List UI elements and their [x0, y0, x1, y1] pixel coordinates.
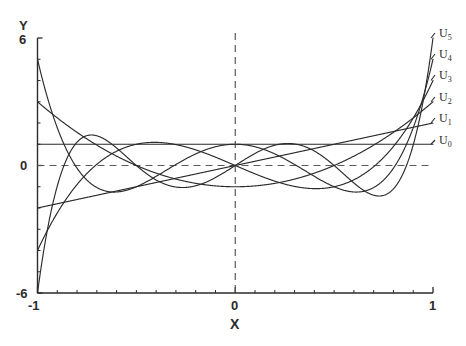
leader-u_0: [431, 140, 435, 144]
plot-canvas: [0, 0, 466, 346]
series-label-base: U: [439, 26, 448, 40]
leader-u_1: [431, 118, 435, 123]
series-label-base: U: [439, 90, 448, 104]
leader-u_2: [431, 97, 435, 102]
series-label-subscript: 5: [448, 33, 452, 42]
series-label-subscript: 0: [448, 140, 452, 149]
chebyshev-u-plot-figure: Y 6 0 -6 -1 0 1 X U5U4U3U2U1U0: [0, 0, 466, 346]
leader-u_5: [431, 33, 435, 38]
y-axis-title: Y: [19, 19, 28, 32]
series-label-u5: U5: [439, 27, 452, 42]
series-label-u3: U3: [439, 69, 452, 84]
series-label-subscript: 1: [448, 118, 452, 127]
x-axis-tick-label-zero: 0: [231, 299, 238, 312]
curve-u_4: [38, 59, 434, 192]
series-label-u0: U0: [439, 134, 452, 149]
series-label-subscript: 2: [448, 97, 452, 106]
y-axis-tick-label-zero: 0: [20, 159, 27, 172]
y-axis-tick-label-bottom: -6: [16, 287, 28, 300]
series-label-base: U: [439, 68, 448, 82]
series-label-u2: U2: [439, 91, 452, 106]
series-label-subscript: 4: [448, 54, 452, 63]
series-label-base: U: [439, 133, 448, 147]
series-label-u4: U4: [439, 48, 452, 63]
leader-u_4: [431, 54, 435, 59]
y-axis-tick-label-top: 6: [19, 33, 26, 46]
x-axis-title: X: [230, 317, 239, 331]
series-label-base: U: [439, 47, 448, 61]
series-label-u1: U1: [439, 112, 452, 127]
series-label-base: U: [439, 111, 448, 125]
x-axis-tick-label-minus-one: -1: [28, 299, 40, 312]
leader-u_3: [431, 75, 435, 81]
x-axis-tick-label-one: 1: [429, 299, 436, 312]
series-label-subscript: 3: [448, 75, 452, 84]
